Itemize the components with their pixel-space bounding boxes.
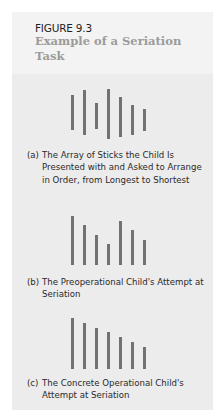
panel-c-caption: (c) The Concrete Operational Child's Att… — [27, 377, 207, 402]
stick — [131, 230, 134, 265]
stick — [83, 225, 86, 265]
stick — [95, 235, 98, 265]
stick — [143, 240, 146, 265]
stick — [143, 347, 146, 369]
stick — [131, 342, 134, 369]
stick — [83, 90, 86, 135]
panel-c-tag: (c) — [27, 377, 38, 389]
stick — [119, 97, 122, 137]
panel-a-tag: (a) — [27, 149, 39, 161]
stick — [119, 221, 122, 265]
panel-b-tag: (b) — [27, 276, 39, 288]
figure-header: FIGURE 9.3 Example of a Seriation Task — [12, 12, 213, 74]
panel-c-caption-text: The Concrete Operational Child's Attempt… — [27, 377, 207, 402]
panel-a-caption-text: The Array of Sticks the Child Is Present… — [27, 149, 207, 186]
stick — [107, 244, 110, 265]
stick — [71, 95, 74, 130]
stick — [71, 318, 74, 369]
stick — [95, 328, 98, 369]
stick — [143, 109, 146, 131]
stick — [83, 323, 86, 369]
stick — [131, 105, 134, 135]
stick — [95, 103, 98, 129]
figure-panel: FIGURE 9.3 Example of a Seriation Task (… — [12, 12, 213, 410]
stick — [107, 89, 110, 139]
stick — [71, 216, 74, 265]
figure-title: Example of a Seriation Task — [35, 34, 205, 64]
figure-label: FIGURE 9.3 — [35, 22, 92, 34]
stick — [107, 332, 110, 369]
stick — [119, 337, 122, 369]
panel-a-caption: (a) The Array of Sticks the Child Is Pre… — [27, 149, 207, 186]
panel-b-caption-text: The Preoperational Child's Attempt at Se… — [27, 276, 207, 301]
panel-b-caption: (b) The Preoperational Child's Attempt a… — [27, 276, 207, 301]
